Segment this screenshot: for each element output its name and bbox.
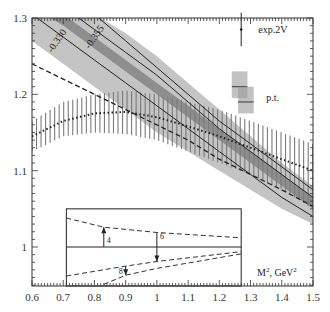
x-tick-label: 1 bbox=[154, 291, 160, 303]
x-tick-label: 0.7 bbox=[56, 291, 70, 303]
x-tick-label: 1.1 bbox=[181, 291, 195, 303]
legend: exp.2Vp.t. bbox=[232, 13, 288, 114]
legend-exp-label: exp.2V bbox=[258, 24, 288, 35]
inset-label-8: 8 bbox=[119, 267, 123, 276]
y-tick-label: 1 bbox=[22, 241, 28, 253]
pt-box-1 bbox=[238, 87, 254, 114]
chart-container: -0.330-0.355 468 exp.2Vp.t. 0.60.70.80.9… bbox=[0, 0, 330, 312]
x-tick-label: 1.3 bbox=[244, 291, 258, 303]
x-tick-label: 1.5 bbox=[306, 291, 320, 303]
inset-panel: 468 bbox=[66, 209, 241, 286]
x-tick-label: 1.2 bbox=[212, 291, 226, 303]
inset-label-6: 6 bbox=[160, 232, 164, 241]
x-tick-label: 0.6 bbox=[25, 291, 39, 303]
y-tick-label: 1.1 bbox=[13, 165, 27, 177]
y-tick-label: 1.2 bbox=[13, 88, 27, 100]
legend-pt-label: p.t. bbox=[266, 92, 279, 103]
x-tick-label: 1.4 bbox=[275, 291, 289, 303]
chart-svg: -0.330-0.355 468 exp.2Vp.t. 0.60.70.80.9… bbox=[0, 0, 330, 312]
x-tick-label: 0.9 bbox=[119, 291, 133, 303]
inset-label-4: 4 bbox=[107, 236, 111, 245]
x-tick-label: 0.8 bbox=[88, 291, 102, 303]
x-axis-label: M2, GeV2 bbox=[257, 266, 297, 278]
y-tick-label: 1.3 bbox=[13, 12, 27, 24]
